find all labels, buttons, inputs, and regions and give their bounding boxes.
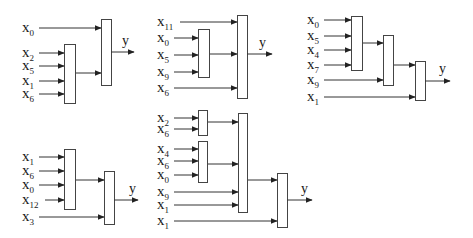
- input-label: x1: [307, 88, 319, 107]
- diagram-canvas: x0x2x5x1x6yx11x0x5x9x6yx0x5x4x7x9x1yx1x6…: [0, 0, 473, 238]
- output-label: y: [259, 35, 266, 50]
- diagram-d4: x1x6x0x12x3y: [22, 148, 138, 227]
- block-box: [105, 172, 115, 225]
- block-box: [65, 150, 76, 210]
- diagram-d5: x2x6x4x6x0x9x1x1y: [157, 109, 312, 231]
- output-label: y: [301, 181, 308, 196]
- block-box: [102, 20, 112, 86]
- block-diagrams: x0x2x5x1x6yx11x0x5x9x6yx0x5x4x7x9x1yx1x6…: [0, 0, 473, 238]
- block-box: [278, 174, 288, 228]
- block-box: [352, 17, 363, 71]
- output-label: y: [129, 181, 136, 196]
- block-box: [416, 62, 426, 101]
- diagram-d1: x0x2x5x1x6y: [22, 19, 134, 104]
- output-label: y: [439, 61, 446, 76]
- block-box: [384, 36, 394, 86]
- diagram-d2: x11x0x5x9x6y: [157, 13, 272, 99]
- input-label: x3: [22, 208, 35, 227]
- block-box: [238, 16, 248, 99]
- block-box: [199, 111, 208, 136]
- block-box: [239, 114, 248, 213]
- diagram-d3: x0x5x4x7x9x1y: [307, 11, 450, 107]
- block-box: [65, 45, 76, 104]
- block-box: [199, 30, 210, 78]
- diagram-layer: x0x2x5x1x6yx11x0x5x9x6yx0x5x4x7x9x1yx1x6…: [22, 11, 450, 231]
- block-box: [199, 142, 208, 183]
- output-label: y: [122, 33, 129, 48]
- input-label: x0: [22, 19, 35, 38]
